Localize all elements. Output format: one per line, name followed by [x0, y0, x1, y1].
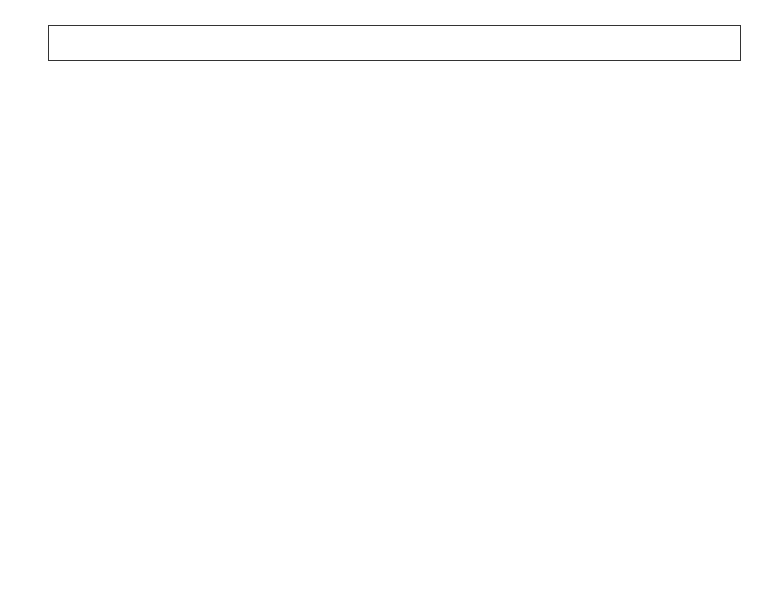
chart-canvas [0, 0, 769, 599]
legend [48, 25, 741, 61]
chart-root [0, 0, 769, 599]
